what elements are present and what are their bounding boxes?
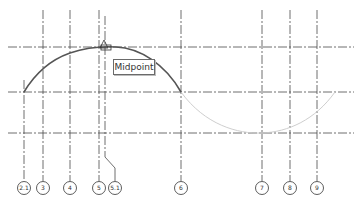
svg-text:8: 8: [288, 184, 292, 191]
grid-bubble-8[interactable]: 8: [284, 182, 297, 195]
snap-tooltip: Midpoint: [113, 59, 155, 75]
drawing-canvas[interactable]: 2.1 3 4 5 5.1 6 7 8 9: [0, 0, 361, 211]
svg-text:7: 7: [260, 184, 264, 191]
arc-selected-curve[interactable]: [24, 47, 181, 92]
svg-text:3: 3: [41, 184, 45, 191]
grid-bubbles: 2.1 3 4 5 5.1 6 7 8 9: [18, 182, 324, 195]
svg-text:2.1: 2.1: [19, 184, 29, 191]
grid-bubble-6[interactable]: 6: [175, 182, 188, 195]
grid-bubble-2-1[interactable]: 2.1: [18, 182, 31, 195]
grid-bubble-3[interactable]: 3: [37, 182, 50, 195]
grid-bubble-7[interactable]: 7: [256, 182, 269, 195]
grid-bubble-5[interactable]: 5: [93, 182, 106, 195]
midpoint-snap-marker: [100, 40, 111, 50]
grid-line-5-1-group[interactable]: [105, 16, 115, 181]
grid-bubble-4[interactable]: 4: [64, 182, 77, 195]
svg-text:5: 5: [97, 184, 101, 191]
svg-text:6: 6: [179, 184, 183, 191]
grid-bubble-9[interactable]: 9: [311, 182, 324, 195]
grid-5-1-leader: [105, 157, 115, 181]
svg-text:4: 4: [68, 184, 72, 191]
grid-bubble-5-1[interactable]: 5.1: [109, 182, 122, 195]
arc-preview-curve: [181, 92, 335, 133]
svg-text:9: 9: [315, 184, 319, 191]
svg-text:5.1: 5.1: [110, 184, 120, 191]
vertical-grid-lines: [24, 10, 317, 181]
